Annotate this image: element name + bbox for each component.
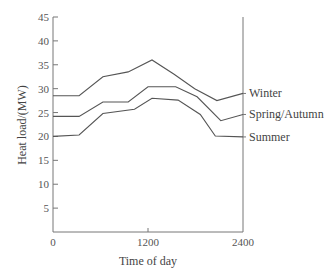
x-axis-ticks: 012002400 <box>50 228 254 248</box>
y-tick-label: 40 <box>38 35 50 47</box>
y-tick-label: 15 <box>38 154 50 166</box>
x-tick-label: 1200 <box>137 236 160 248</box>
y-tick-label: 5 <box>44 202 50 214</box>
y-tick-label: 45 <box>38 11 50 23</box>
series-label-winter: Winter <box>249 86 282 100</box>
y-tick-label: 20 <box>38 130 50 142</box>
heat-load-chart: 51015202530354045 012002400 WinterSpring… <box>0 0 333 275</box>
series-line-spring-autumn <box>53 87 243 121</box>
axes <box>53 17 243 232</box>
x-tick-label: 2400 <box>232 236 255 248</box>
x-tick-label: 0 <box>50 236 56 248</box>
y-tick-label: 10 <box>38 178 50 190</box>
y-tick-label: 35 <box>38 59 50 71</box>
series-line-summer <box>53 98 243 137</box>
x-axis-title: Time of day <box>119 254 177 268</box>
series-label-summer: Summer <box>249 130 290 144</box>
series-labels: WinterSpring/AutumnSummer <box>243 86 324 143</box>
series-label-spring-autumn: Spring/Autumn <box>249 107 324 121</box>
y-axis-ticks: 51015202530354045 <box>38 11 58 214</box>
y-tick-label: 25 <box>38 107 50 119</box>
series-lines <box>53 60 243 137</box>
y-axis-title: Heat load/(MW) <box>15 85 29 165</box>
y-tick-label: 30 <box>38 83 50 95</box>
series-line-winter <box>53 60 243 101</box>
